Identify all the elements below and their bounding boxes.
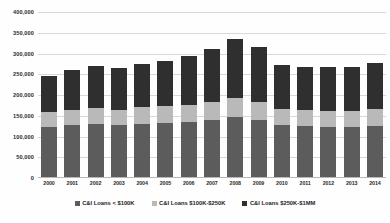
bar-segment-bot [111, 125, 127, 178]
x-axis-line [38, 177, 386, 178]
chart-legend: C&I Loans < $100KC&I Loans $100K-$250KC&… [0, 200, 390, 206]
x-axis-tick-label: 2010 [274, 180, 290, 186]
bar-2011 [297, 12, 313, 178]
bar-2013 [344, 12, 360, 178]
y-axis-tick-label: 50,000 [16, 154, 34, 160]
bar-segment-mid [134, 107, 150, 123]
bar-2007 [204, 12, 220, 178]
legend-item[interactable]: C&I Loans $100K-$250K [152, 200, 226, 206]
bar-segment-top [134, 64, 150, 108]
x-axis-tick-label: 2008 [227, 180, 243, 186]
bar-2000 [41, 12, 57, 178]
y-axis-tick-label: 300,000 [13, 51, 34, 57]
legend-item[interactable]: C&I Loans $250K-$1MM [242, 200, 315, 206]
x-axis-tick-label: 2000 [41, 180, 57, 186]
x-axis-tick-label: 2006 [181, 180, 197, 186]
bar-segment-mid [320, 111, 336, 127]
bar-segment-top [274, 65, 290, 109]
bar-segment-mid [41, 112, 57, 127]
bar-segment-mid [251, 102, 267, 120]
bar-segment-top [297, 67, 313, 110]
x-axis-tick-label: 2001 [64, 180, 80, 186]
bar-segment-top [367, 63, 383, 109]
bar-group [38, 12, 386, 178]
bar-segment-top [88, 66, 104, 108]
bar-2008 [227, 12, 243, 178]
bar-segment-mid [88, 108, 104, 124]
y-axis-tick-label: 350,000 [13, 30, 34, 36]
legend-label: C&I Loans < $100K [82, 200, 134, 206]
bar-segment-mid [204, 102, 220, 120]
y-axis-tick-label: 0 [31, 175, 34, 181]
x-axis-tick-label: 2002 [88, 180, 104, 186]
bar-segment-top [204, 49, 220, 102]
bar-2006 [181, 12, 197, 178]
bar-segment-mid [181, 105, 197, 122]
x-axis-tick-label: 2011 [297, 180, 313, 186]
bar-segment-mid [64, 110, 80, 125]
bar-segment-bot [227, 117, 243, 178]
bar-segment-top [344, 67, 360, 111]
x-axis-tick-label: 2005 [157, 180, 173, 186]
x-axis-tick-label: 2014 [367, 180, 383, 186]
legend-label: C&I Loans $100K-$250K [159, 200, 225, 206]
bar-segment-mid [344, 111, 360, 127]
bar-segment-bot [41, 127, 57, 178]
x-axis-tick-label: 2003 [111, 180, 127, 186]
bar-segment-top [227, 39, 243, 99]
bar-segment-top [64, 70, 80, 110]
legend-item[interactable]: C&I Loans < $100K [75, 200, 135, 206]
bar-2010 [274, 12, 290, 178]
x-axis-tick-label: 2013 [344, 180, 360, 186]
bar-segment-top [157, 61, 173, 107]
y-axis-tick-label: 400,000 [13, 9, 34, 15]
bar-2005 [157, 12, 173, 178]
bar-segment-bot [344, 127, 360, 178]
x-axis-labels: 2000200120022003200420052006200720082009… [38, 180, 386, 186]
legend-swatch-icon [152, 201, 157, 206]
y-axis-labels: 400,000350,000300,000250,000200,000150,0… [0, 12, 34, 178]
x-axis-tick-label: 2007 [204, 180, 220, 186]
legend-swatch-icon [75, 201, 80, 206]
x-axis-tick-label: 2012 [320, 180, 336, 186]
bar-segment-bot [251, 120, 267, 178]
plot-area [38, 12, 386, 178]
bar-2004 [134, 12, 150, 178]
bar-segment-bot [134, 124, 150, 178]
bar-segment-top [41, 76, 57, 113]
bar-segment-top [251, 47, 267, 102]
legend-label: C&I Loans $250K-$1MM [250, 200, 315, 206]
bar-segment-mid [367, 109, 383, 126]
stacked-bar-chart: 400,000350,000300,000250,000200,000150,0… [0, 0, 390, 223]
bar-segment-bot [297, 126, 313, 178]
bar-2009 [251, 12, 267, 178]
y-axis-tick-label: 250,000 [13, 71, 34, 77]
bar-segment-mid [274, 109, 290, 125]
bar-segment-top [181, 56, 197, 105]
bar-2002 [88, 12, 104, 178]
bar-segment-bot [274, 125, 290, 178]
y-axis-tick-label: 150,000 [13, 113, 34, 119]
bar-segment-mid [157, 106, 173, 123]
bar-2003 [111, 12, 127, 178]
bar-segment-mid [111, 110, 127, 125]
bar-2001 [64, 12, 80, 178]
y-axis-tick-label: 100,000 [13, 134, 34, 140]
bar-segment-top [111, 68, 127, 110]
bar-segment-mid [297, 110, 313, 126]
bar-2014 [367, 12, 383, 178]
bar-2012 [320, 12, 336, 178]
bar-segment-bot [320, 127, 336, 178]
bar-segment-bot [204, 120, 220, 179]
bar-segment-bot [88, 124, 104, 178]
x-axis-tick-label: 2004 [134, 180, 150, 186]
bar-segment-bot [157, 123, 173, 178]
bar-segment-top [320, 67, 336, 111]
bar-segment-bot [367, 126, 383, 178]
bar-segment-bot [181, 122, 197, 178]
legend-swatch-icon [242, 201, 247, 206]
y-axis-tick-label: 200,000 [13, 92, 34, 98]
bar-segment-bot [64, 125, 80, 178]
x-axis-tick-label: 2009 [251, 180, 267, 186]
bar-segment-mid [227, 98, 243, 117]
